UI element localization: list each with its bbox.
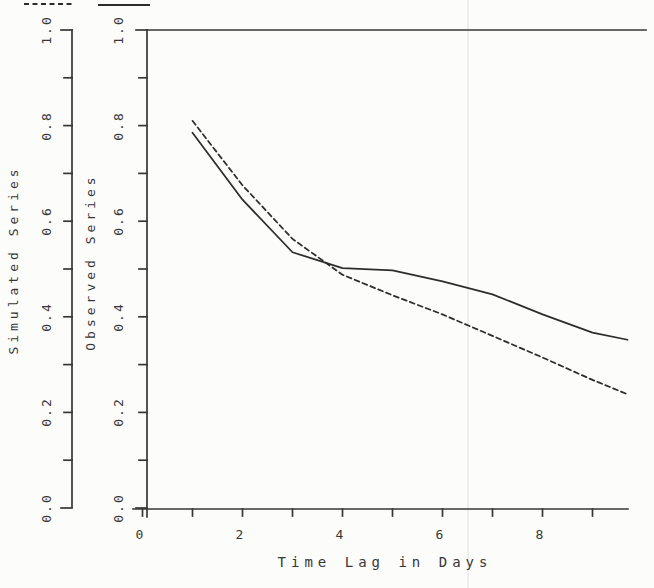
y-tick-label-simulated: 0.8 (40, 111, 53, 140)
y-tick-label-simulated: 0.6 (40, 206, 53, 235)
y-tick-label-observed: 0.0 (112, 493, 125, 522)
x-axis-title: Time Lag in Days (278, 555, 493, 569)
y-tick-label-simulated: 0.4 (40, 302, 53, 331)
y-tick-label-simulated: 0.2 (40, 398, 53, 427)
x-tick-label: 2 (236, 528, 246, 541)
autocorrelation-figure: Simulated Series Observed Series Time La… (0, 0, 654, 588)
series-line-observed-series (193, 133, 628, 340)
plot-canvas (0, 0, 654, 588)
y-tick-label-observed: 0.8 (112, 111, 125, 140)
y-tick-label-observed: 0.4 (112, 302, 125, 331)
series-line-simulated-series (193, 121, 628, 394)
y-tick-label-observed: 0.2 (112, 398, 125, 427)
y-tick-label-observed: 1.0 (112, 15, 125, 44)
y-tick-label-observed: 0.6 (112, 206, 125, 235)
y-tick-label-simulated: 1.0 (40, 15, 53, 44)
y-tick-label-simulated: 0.0 (40, 493, 53, 522)
y-axis-title-simulated: Simulated Series (7, 165, 20, 354)
y-axis-title-observed: Observed Series (84, 173, 97, 350)
x-tick-label: 0 (136, 528, 146, 541)
x-tick-label: 4 (336, 528, 346, 541)
x-tick-label: 8 (536, 528, 546, 541)
x-tick-label: 6 (436, 528, 446, 541)
